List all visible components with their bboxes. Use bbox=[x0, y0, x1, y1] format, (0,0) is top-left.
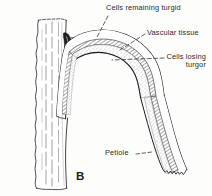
leader-petiole bbox=[136, 152, 152, 154]
label-vascular-tissue: Vascular tissue bbox=[147, 29, 199, 37]
label-cells-losing-turgor: Cells losing turgor bbox=[166, 53, 206, 70]
botanical-figure: Cells remaining turgid Vascular tissue C… bbox=[0, 0, 212, 196]
label-cells-remaining-turgid: Cells remaining turgid bbox=[106, 4, 181, 12]
figure-letter-label: B bbox=[76, 170, 85, 182]
stem-bottom-edge bbox=[37, 188, 67, 189]
label-petiole: Petiole bbox=[105, 149, 129, 157]
